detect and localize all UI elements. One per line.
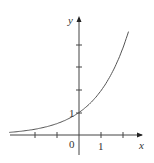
y-tick-label-1: 1 [69, 107, 75, 119]
y-axis-label: y [67, 14, 73, 26]
x-tick-label-1: 1 [98, 140, 104, 152]
x-axis-label: x [138, 139, 144, 151]
plot: y x 0 1 1 [0, 0, 154, 163]
x-arrow-icon [137, 133, 143, 138]
chart: y x 0 1 1 [0, 0, 154, 163]
y-arrow-icon [77, 16, 82, 22]
origin-label: 0 [69, 138, 75, 150]
